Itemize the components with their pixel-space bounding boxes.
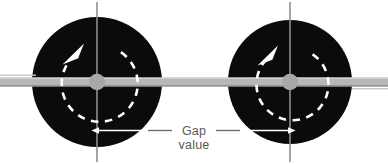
right-disc-hub xyxy=(282,74,298,90)
shaft-body xyxy=(0,78,388,87)
diagram-canvas: Gap value xyxy=(0,0,388,164)
shaft-shadow-edge xyxy=(0,85,388,86)
gap-label-line-1: Gap xyxy=(182,124,206,138)
shaft-highlight-edge xyxy=(0,78,388,79)
shaft-right-guide-line xyxy=(352,88,388,89)
gap-value-diagram: Gap value xyxy=(0,0,388,164)
gap-label-line-2: value xyxy=(179,138,210,152)
shaft-left-guide-line xyxy=(0,75,36,76)
gap-value-label: Gap value xyxy=(179,124,210,153)
left-disc-hub xyxy=(89,74,105,90)
